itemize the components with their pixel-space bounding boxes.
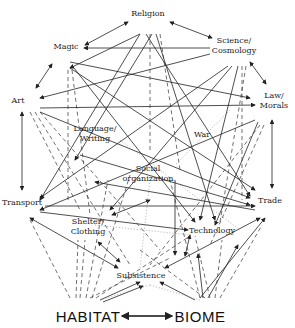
cultural-domains-diagram: Religion Magic Science/ Cosmology Art La… <box>0 0 295 328</box>
node-social: Social <box>136 164 161 173</box>
node-biome: BIOME <box>175 308 226 325</box>
node-art: Art <box>11 96 26 105</box>
node-language-line2: Writing <box>80 134 110 143</box>
node-technology: Technology <box>189 226 236 235</box>
node-war: War <box>194 130 210 139</box>
node-social-line2: organization <box>123 174 174 183</box>
node-science: Science/ <box>217 36 252 45</box>
node-trade: Trade <box>258 196 282 205</box>
node-magic: Magic <box>53 42 79 51</box>
node-transport: Transport <box>2 198 43 207</box>
node-shelter: Shelter/ <box>72 217 105 226</box>
node-shelter-line2: Clothing <box>71 227 106 236</box>
edges-solid <box>22 22 272 302</box>
node-labels: Religion Magic Science/ Cosmology Art La… <box>2 9 288 325</box>
node-religion: Religion <box>131 9 165 18</box>
node-language: Language/ <box>74 124 117 133</box>
node-law-line2: Morals <box>260 101 288 110</box>
node-subsistence: Subsistence <box>117 271 166 280</box>
node-law: Law/ <box>264 91 284 100</box>
node-habitat: HABITAT <box>56 308 121 325</box>
node-science-line2: Cosmology <box>212 46 257 55</box>
